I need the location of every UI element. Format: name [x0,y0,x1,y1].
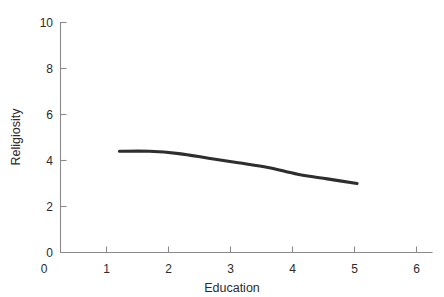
x-tick-label-0: 0 [41,262,48,276]
x-tick-label-1: 1 [103,262,110,276]
y-tick-label-0: 0 [46,246,53,260]
x-tick-label-5: 5 [351,262,358,276]
x-tick-label-4: 4 [289,262,296,276]
x-tick-label-2: 2 [165,262,172,276]
y-tick-label-8: 8 [46,62,53,76]
x-tick-label-6: 6 [413,262,420,276]
data-line-religiosity [119,151,357,183]
y-tick-label-4: 4 [46,154,53,168]
x-tick-label-3: 3 [227,262,234,276]
y-tick-label-6: 6 [46,108,53,122]
x-axis-title: Education [204,281,260,295]
y-axis-title: Religiosity [9,108,23,166]
y-tick-label-2: 2 [46,200,53,214]
y-tick-label-10: 10 [40,16,54,30]
chart-container: 10 8 6 4 2 0 0 1 2 3 4 5 6 Education Rel… [0,0,444,297]
line-chart: 10 8 6 4 2 0 0 1 2 3 4 5 6 Education Rel… [0,0,444,297]
